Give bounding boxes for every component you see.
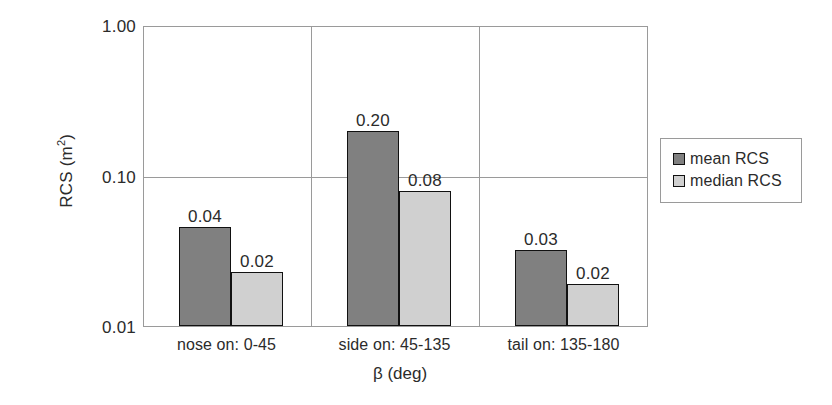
bar-value-label-median-nose-on: 0.02 [224, 253, 290, 270]
y-axis-title-base: RCS (m [57, 146, 76, 208]
y-axis-tick-labels: 1.00 0.10 0.01 [78, 0, 136, 405]
bar-value-label-median-side-on: 0.08 [392, 172, 458, 189]
y-tick-label-1: 1.00 [80, 18, 136, 35]
y-tick-label-3: 0.01 [80, 319, 136, 336]
bar-value-label-mean-tail-on: 0.03 [508, 231, 574, 248]
bar-median-side-on [399, 191, 451, 326]
bar-mean-tail-on [515, 250, 567, 326]
group-separator-1 [311, 27, 312, 326]
legend-label-mean-rcs: mean RCS [690, 151, 769, 167]
x-axis-title: β (deg) [280, 364, 520, 384]
y-axis-title-tail: ) [57, 134, 76, 140]
y-axis-title: RCS (m2) [55, 91, 77, 251]
bar-mean-nose-on [179, 227, 231, 326]
x-tick-label-side-on: side on: 45-135 [311, 336, 478, 354]
legend-swatch-mean-rcs [673, 153, 685, 165]
legend-item-mean-rcs: mean RCS [661, 148, 801, 170]
bar-median-nose-on [231, 272, 283, 326]
y-axis-title-superscript: 2 [55, 140, 67, 146]
bar-mean-side-on [347, 131, 399, 326]
bar-value-label-mean-side-on: 0.20 [340, 112, 406, 129]
legend-label-median-rcs: median RCS [690, 173, 782, 189]
plot-inner: 0.04 0.02 0.20 0.08 0.03 0.02 [144, 27, 647, 326]
y-tick-label-2: 0.10 [80, 169, 136, 186]
group-separator-2 [479, 27, 480, 326]
x-tick-label-nose-on: nose on: 0-45 [143, 336, 310, 354]
plot-area: 0.04 0.02 0.20 0.08 0.03 0.02 [143, 26, 648, 327]
bar-value-label-median-tail-on: 0.02 [560, 265, 626, 282]
legend-swatch-median-rcs [673, 175, 685, 187]
bar-value-label-mean-nose-on: 0.04 [172, 208, 238, 225]
bar-median-tail-on [567, 284, 619, 326]
x-tick-label-tail-on: tail on: 135-180 [479, 336, 648, 354]
rcs-bar-chart: RCS (m2) 1.00 0.10 0.01 0.04 0.02 0 [0, 0, 832, 405]
legend-item-median-rcs: median RCS [661, 170, 801, 192]
chart-legend: mean RCS median RCS [660, 138, 802, 203]
